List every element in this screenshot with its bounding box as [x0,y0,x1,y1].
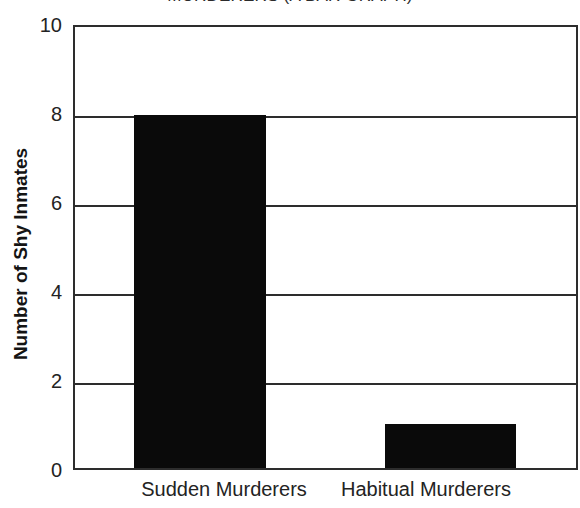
bar-habitual-murderers[interactable] [385,424,517,468]
x-tick-label-sudden-murderers: Sudden Murderers [114,479,334,499]
y-tick-label: 4 [2,282,62,302]
bar-chart-figure: MURDERERS (A BAR GRAPH) Number of Shy In… [0,0,580,508]
chart-title-clip: MURDERERS (A BAR GRAPH) [0,0,580,8]
y-tick-label: 6 [2,193,62,213]
y-tick-label: 8 [2,104,62,124]
y-tick-label: 0 [2,460,62,480]
bar-sudden-murderers[interactable] [134,115,266,468]
x-tick-label-habitual-murderers: Habitual Murderers [316,479,536,499]
y-tick-label: 10 [2,15,62,35]
y-tick-label: 2 [2,371,62,391]
chart-title: MURDERERS (A BAR GRAPH) [0,0,580,6]
plot-area [73,25,578,470]
y-axis-tick-labels: 10 8 6 4 2 0 [0,0,62,508]
